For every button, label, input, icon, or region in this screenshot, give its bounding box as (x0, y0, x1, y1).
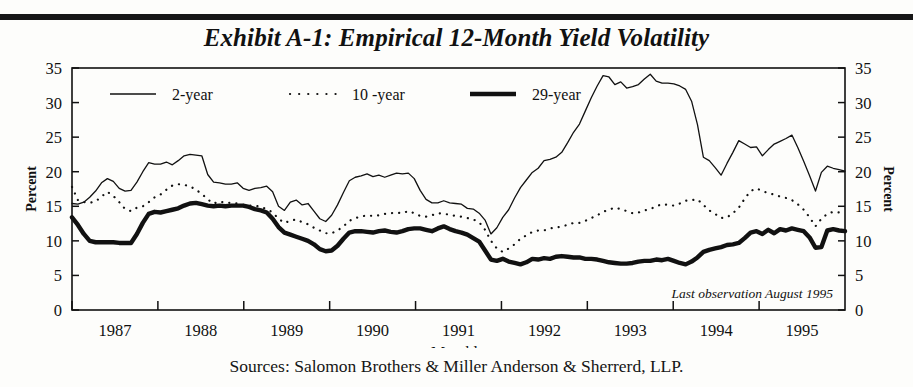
legend-label: 2-year (172, 86, 214, 104)
chart-annotation: Last observation August 1995 (671, 286, 834, 301)
plot-border (72, 68, 845, 310)
legend-item: 10 -year (290, 86, 406, 104)
y-tick-label-right: 30 (855, 94, 872, 113)
top-divider-rule (0, 14, 913, 20)
legend-item: 29-year (470, 86, 582, 104)
y-tick-label-left: 35 (46, 59, 63, 78)
x-tick-label: 1989 (270, 321, 303, 340)
y-tick-label-left: 20 (46, 163, 63, 182)
source-note: Sources: Salomon Brothers & Miller Ander… (0, 356, 913, 377)
x-tick-label: 1995 (786, 321, 819, 340)
x-tick-label: 1992 (528, 321, 561, 340)
y-tick-label-right: 10 (855, 232, 872, 251)
y-tick-label-right: 25 (855, 128, 872, 147)
y-axis-title-left: Percent (24, 166, 39, 212)
y-tick-label-left: 25 (46, 128, 63, 147)
x-tick-label: 1991 (442, 321, 475, 340)
x-tick-label: 1990 (356, 321, 389, 340)
y-tick-label-left: 5 (54, 266, 62, 285)
series-line-10-year (72, 184, 845, 252)
legend-label: 29-year (532, 86, 582, 104)
y-tick-label-right: 0 (855, 301, 863, 320)
y-tick-label-left: 10 (46, 232, 63, 251)
y-tick-label-right: 5 (855, 266, 863, 285)
y-tick-label-right: 15 (855, 197, 872, 216)
x-tick-label: 1988 (184, 321, 217, 340)
x-axis-title: Monthly (431, 344, 486, 348)
y-tick-label-left: 15 (46, 197, 63, 216)
chart-figure: 0055101015152020252530303535198719881989… (0, 58, 913, 348)
y-tick-label-right: 35 (855, 59, 872, 78)
yield-volatility-line-chart: 0055101015152020252530303535198719881989… (0, 58, 913, 348)
y-axis-title-right: Percent (881, 166, 896, 212)
x-tick-label: 1994 (700, 321, 733, 340)
series-line-29-year (72, 203, 845, 265)
y-tick-label-left: 30 (46, 94, 63, 113)
plot-frame (72, 68, 845, 310)
chart-legend: 2-year10 -year29-year (110, 86, 582, 104)
y-tick-label-right: 20 (855, 163, 872, 182)
page-title: Exhibit A-1: Empirical 12-Month Yield Vo… (0, 24, 913, 52)
x-tick-label: 1993 (614, 321, 647, 340)
y-tick-label-left: 0 (54, 301, 62, 320)
legend-item: 2-year (110, 86, 214, 104)
x-tick-label: 1987 (98, 321, 131, 340)
legend-label: 10 -year (352, 86, 406, 104)
